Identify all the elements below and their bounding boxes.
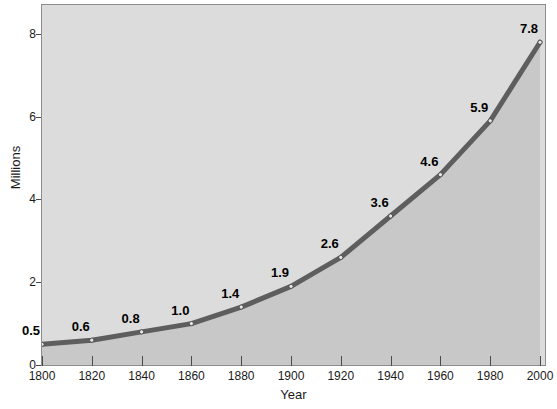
y-tick-mark	[36, 117, 41, 118]
x-tick-label: 1840	[120, 370, 164, 382]
x-axis-title: Year	[41, 387, 546, 402]
x-tick-mark	[490, 356, 491, 366]
x-tick-label: 2000	[518, 370, 557, 382]
data-point-label: 7.8	[512, 22, 546, 35]
x-tick-label: 1800	[20, 370, 64, 382]
x-tick-label: 1900	[269, 370, 313, 382]
x-tick-mark	[291, 356, 292, 366]
data-point-label: 4.6	[412, 155, 446, 168]
x-tick-label: 1940	[369, 370, 413, 382]
x-tick-label: 1980	[468, 370, 512, 382]
x-tick-mark	[191, 356, 192, 366]
data-point-label: 1.0	[163, 304, 197, 317]
y-tick-mark	[36, 199, 41, 200]
data-point-marker	[538, 40, 542, 44]
data-point-marker	[339, 255, 343, 259]
data-point-marker	[438, 173, 442, 177]
y-tick-label: 8	[14, 28, 36, 40]
data-point-marker	[140, 330, 144, 334]
data-point-label: 0.6	[64, 320, 98, 333]
data-point-marker	[42, 342, 44, 346]
x-tick-mark	[440, 356, 441, 366]
data-point-marker	[488, 119, 492, 123]
x-tick-label: 1960	[418, 370, 462, 382]
data-point-label: 0.8	[114, 312, 148, 325]
x-tick-label: 1820	[70, 370, 114, 382]
y-tick-mark	[36, 365, 41, 366]
data-point-label: 3.6	[363, 196, 397, 209]
x-tick-mark	[42, 356, 43, 366]
y-tick-mark	[36, 34, 41, 35]
data-point-marker	[189, 322, 193, 326]
data-point-label: 5.9	[462, 101, 496, 114]
x-tick-mark	[142, 356, 143, 366]
y-tick-label: 2	[14, 276, 36, 288]
y-tick-mark	[36, 282, 41, 283]
y-tick-label: 6	[14, 111, 36, 123]
data-point-marker	[289, 284, 293, 288]
x-tick-mark	[391, 356, 392, 366]
x-tick-label: 1880	[219, 370, 263, 382]
y-tick-label: 4	[14, 193, 36, 205]
data-point-label: 0.5	[14, 324, 48, 337]
data-point-label: 1.9	[263, 266, 297, 279]
x-tick-mark	[341, 356, 342, 366]
x-tick-label: 1860	[169, 370, 213, 382]
x-tick-mark	[241, 356, 242, 366]
data-point-label: 1.4	[213, 287, 247, 300]
data-point-marker	[90, 338, 94, 342]
x-tick-label: 1920	[319, 370, 363, 382]
data-point-label: 2.6	[313, 237, 347, 250]
x-tick-mark	[92, 356, 93, 366]
x-tick-mark	[540, 356, 541, 366]
data-point-marker	[239, 305, 243, 309]
population-line-chart: Millions 02468 0.50.60.81.01.41.92.63.64…	[0, 0, 557, 409]
data-point-marker	[389, 214, 393, 218]
